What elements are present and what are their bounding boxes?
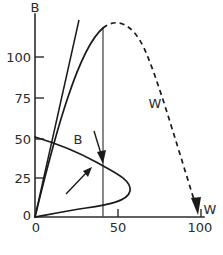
axes-group	[35, 14, 204, 217]
arrow-up-shaft	[66, 172, 87, 194]
x-tick-label-100: 100	[188, 220, 213, 235]
annotation-arrow-down	[94, 131, 106, 164]
y-tick-label-100: 100	[6, 50, 31, 65]
y-axis-title: B	[31, 0, 40, 15]
curve-label-w: W	[149, 96, 162, 111]
chart-figure: B W 100 75 50 25 0 0 50 100 B W	[0, 0, 223, 255]
y-tick-label-50: 50	[14, 132, 31, 147]
y-tick-label-25: 25	[14, 171, 31, 186]
curve-label-b: B	[74, 132, 83, 147]
y-tick-label-75: 75	[14, 91, 31, 106]
w-curve-solid	[35, 28, 103, 217]
y-tick-label-0: 0	[23, 208, 31, 223]
x-tick-marks	[118, 209, 201, 217]
annotation-arrow-up	[66, 167, 92, 194]
arrow-down-head	[97, 150, 106, 164]
x-tick-label-0: 0	[32, 220, 40, 235]
y-tick-marks	[35, 57, 44, 178]
w-curve-dashed	[103, 23, 196, 206]
plot-canvas: B W 100 75 50 25 0 0 50 100 B W	[0, 0, 223, 255]
w-curve-arrowhead	[191, 197, 201, 215]
x-axis-title: W	[204, 202, 217, 217]
x-tick-label-50: 50	[110, 220, 127, 235]
